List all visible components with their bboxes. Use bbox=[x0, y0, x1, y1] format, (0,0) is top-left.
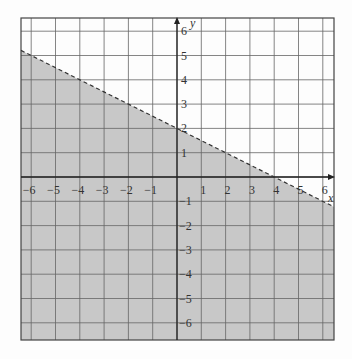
y-tick-label: 5 bbox=[181, 49, 187, 63]
x-tick-label: −5 bbox=[47, 183, 60, 197]
x-tick-label: −1 bbox=[144, 183, 157, 197]
y-axis-label: y bbox=[189, 16, 196, 30]
y-tick-label: −3 bbox=[179, 243, 192, 257]
x-tick-label: 6 bbox=[322, 183, 328, 197]
y-tick-label: 1 bbox=[181, 146, 187, 160]
y-tick-label: 3 bbox=[181, 97, 187, 111]
y-tick-label: 2 bbox=[181, 121, 187, 135]
y-tick-label: −2 bbox=[179, 219, 192, 233]
y-tick-label: −6 bbox=[179, 316, 192, 330]
x-tick-label: −3 bbox=[96, 183, 109, 197]
inequality-graph: −6−5−4−3−2−1123456654321−1−2−3−4−5−6xy bbox=[0, 0, 352, 359]
y-tick-label: −5 bbox=[179, 292, 192, 306]
x-tick-label: −6 bbox=[23, 183, 36, 197]
y-tick-label: 4 bbox=[181, 73, 187, 87]
y-tick-label: −1 bbox=[179, 194, 192, 208]
x-tick-label: 3 bbox=[249, 183, 255, 197]
x-tick-label: −2 bbox=[120, 183, 133, 197]
y-tick-label: −4 bbox=[179, 267, 192, 281]
x-tick-label: 5 bbox=[298, 183, 304, 197]
x-tick-label: 1 bbox=[200, 183, 206, 197]
y-tick-label: 6 bbox=[181, 24, 187, 38]
x-axis-label: x bbox=[327, 191, 334, 205]
x-tick-label: 2 bbox=[225, 183, 231, 197]
x-tick-label: 4 bbox=[273, 183, 279, 197]
x-tick-label: −4 bbox=[71, 183, 84, 197]
